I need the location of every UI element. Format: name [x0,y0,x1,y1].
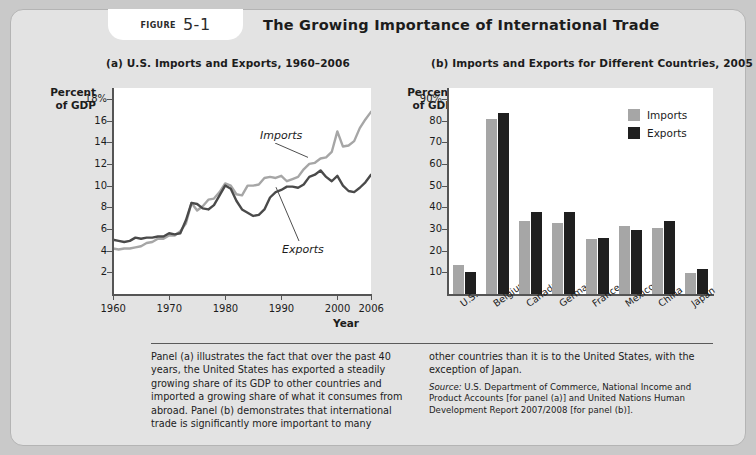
panel-a-y-tick [107,251,113,252]
panel-b-y-tick [442,229,448,230]
panel-a-line-chart [113,88,371,294]
panel-a-y-axis [112,88,114,294]
panel-a-title: (a) U.S. Imports and Exports, 1960–2006 [106,57,350,69]
panel-b-y-tick-label: 60 [400,158,442,169]
figure-card: Figure 5-1 The Growing Importance of Int… [10,9,746,446]
panel-b-y-tick [442,251,448,252]
panel-a-x-tick-label: 1960 [101,303,126,314]
source-word: Source: [429,382,462,392]
caption-left-column: Panel (a) illustrates the fact that over… [151,350,419,430]
legend-swatch-exports [628,127,640,139]
panel-b-y-tick-label: 40 [400,201,442,212]
panel-b-legend-item-exports: Exports [628,127,687,139]
panel-b-y-tick [442,164,448,165]
panel-b-y-tick [442,99,448,100]
panel-b-bar-belgium-imports [486,119,497,294]
panel-b-bar-mexico-imports [619,226,630,294]
panel-b-y-tick [442,142,448,143]
panel-a-y-tick [107,99,113,100]
panel-b-y-tick-label: 50 [400,180,442,191]
panel-a-imports-leader-line [275,143,308,157]
panel-a-series-exports [113,170,371,242]
panel-a-y-tick [107,229,113,230]
panel-a-x-tick [169,294,170,300]
panel-a-y-tick-label: 4 [65,245,107,256]
panel-a-y-tick-label: 2 [65,266,107,277]
figure-badge-number: 5-1 [183,15,211,34]
legend-label-exports: Exports [647,127,687,139]
panel-b-y-tick-label: 80 [400,115,442,126]
panel-a-exports-leader-line [276,187,299,241]
panel-b-bar-canada-exports [531,212,542,294]
panel-b-y-tick-label: 10 [400,266,442,277]
caption-source: Source: U.S. Department of Commerce, Nat… [429,382,713,416]
panel-a-y-tick-label: 14 [65,136,107,147]
panel-b-y-tick [442,272,448,273]
panel-b-title: (b) Imports and Exports for Different Co… [431,57,753,69]
panel-b-bar-germany-exports [564,212,575,294]
panel-a-x-tick [281,294,282,300]
panel-b-y-tick-label: 20 [400,245,442,256]
panel-b-y-tick [442,207,448,208]
panel-a-y-tick [107,142,113,143]
panel-a-y-tick-label: 12 [65,158,107,169]
caption-right-column: other countries than it is to the United… [429,350,713,416]
panel-a-x-tick-label: 2000 [325,303,350,314]
panel-a-y-tick-label: 8 [65,201,107,212]
panel-a-imports-annotation: Imports [257,128,305,143]
panel-b-bar-japan-imports [685,273,696,294]
legend-swatch-imports [628,109,640,121]
panel-a-x-tick [337,294,338,300]
panel-a-y-tick-label: 16 [65,115,107,126]
panel-a-y-tick-label: 6 [65,223,107,234]
panel-b-bar-mexico-exports [631,230,642,294]
panel-a-y-tick-label: 10 [65,180,107,191]
panel-b-bar-us-imports [453,265,464,294]
panel-a-x-tick [113,294,114,300]
panel-a-x-axis [112,294,372,296]
figure-title: The Growing Importance of International … [263,17,659,33]
panel-b-bar-france-exports [598,238,609,294]
panel-a-x-tick [225,294,226,300]
panel-b-y-axis [447,88,449,294]
panel-a-y-tick [107,272,113,273]
panel-b-bar-belgium-exports [498,113,509,294]
panel-b-y-tick-label: 30 [400,223,442,234]
panel-a-x-tick-label: 2006 [359,303,384,314]
source-text: U.S. Department of Commerce, National In… [429,382,691,415]
figure-badge-label: Figure [140,18,176,31]
panel-b-bar-france-imports [586,239,597,294]
caption-divider [151,343,713,344]
panel-a-y-tick [107,164,113,165]
caption-right-text: other countries than it is to the United… [429,350,713,377]
panel-b-bar-germany-imports [552,223,563,294]
panel-a-exports-annotation: Exports [279,242,327,257]
panel-a-x-tick-label: 1970 [157,303,182,314]
panel-b-y-tick [442,121,448,122]
panel-b-bar-canada-imports [519,221,530,294]
panel-a-x-tick-label: 1980 [213,303,238,314]
panel-a-x-axis-label: Year [333,317,359,329]
panel-a-y-tick [107,207,113,208]
panel-a-x-tick [371,294,372,300]
panel-b-y-tick-label: 90% [400,93,442,104]
figure-header: Figure 5-1 The Growing Importance of Int… [11,10,747,50]
panel-a-x-tick-label: 1990 [269,303,294,314]
figure-number-badge: Figure 5-1 [108,9,243,40]
legend-label-imports: Imports [647,109,687,121]
panel-b-y-tick [442,186,448,187]
panel-a-y-tick [107,186,113,187]
panel-b-bar-china-exports [664,221,675,294]
panel-a-y-tick [107,121,113,122]
panel-b-legend-item-imports: Imports [628,109,687,121]
panel-a-y-tick-label: 18% [65,93,107,104]
panel-b-y-tick-label: 70 [400,136,442,147]
panel-b-bar-china-imports [652,228,663,294]
